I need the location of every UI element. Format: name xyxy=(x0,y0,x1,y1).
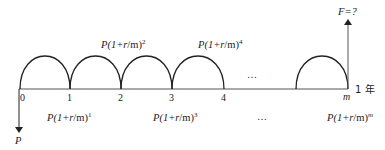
cash-flow-diagram: 0 1 2 3 4 m 1 年 P F=? … … P(1+r/m)2 P(1+… xyxy=(0,0,385,150)
present-value-label: P xyxy=(14,135,22,146)
compounding-arcs xyxy=(20,56,348,89)
formula-period-2: P(1+r/m)2 xyxy=(100,38,146,51)
axis-end-label: 1 年 xyxy=(355,83,375,95)
formula-period-4: P(1+r/m)4 xyxy=(197,38,243,51)
formula-period-1: P(1+r/m)1 xyxy=(46,111,92,124)
ellipsis-bottom: … xyxy=(257,111,267,122)
formula-period-3: P(1+r/m)3 xyxy=(152,111,198,124)
tick-label-m: m xyxy=(343,91,350,102)
tick-label-2: 2 xyxy=(118,92,123,103)
arc-3-4 xyxy=(172,56,224,89)
future-value-label: F=? xyxy=(337,6,357,17)
arc-0-1 xyxy=(20,56,70,89)
arc-2-3 xyxy=(121,56,172,89)
arc-last xyxy=(296,56,348,89)
ellipsis-top: … xyxy=(247,69,257,80)
formula-period-m: P(1+r/m)m xyxy=(326,111,373,124)
tick-label-4: 4 xyxy=(221,92,226,103)
arc-1-2 xyxy=(70,56,121,89)
tick-label-0: 0 xyxy=(20,92,25,103)
tick-label-3: 3 xyxy=(169,92,174,103)
tick-label-1: 1 xyxy=(67,92,72,103)
